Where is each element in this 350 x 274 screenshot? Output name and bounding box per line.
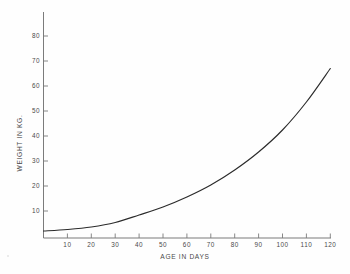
growth-curve-chart: 80 70 60 50 40 30 20 10 10 20 xyxy=(0,0,350,274)
x-axis-tick-labels: 10 20 30 40 50 60 70 80 90 100 110 120 xyxy=(63,241,336,248)
y-tick-label: 50 xyxy=(32,107,40,114)
x-tick-label: 120 xyxy=(324,241,336,248)
y-axis-ticks xyxy=(44,36,49,211)
y-tick-label: 20 xyxy=(32,182,40,189)
x-tick-label: 70 xyxy=(207,241,215,248)
x-tick-label: 60 xyxy=(183,241,191,248)
y-tick-label: 70 xyxy=(32,57,40,64)
y-tick-label: 40 xyxy=(32,132,40,139)
x-axis-ticks xyxy=(67,234,330,239)
x-tick-label: 20 xyxy=(87,241,95,248)
x-tick-label: 90 xyxy=(255,241,263,248)
y-tick-label: 30 xyxy=(32,157,40,164)
y-tick-label: 10 xyxy=(32,207,40,214)
x-tick-label: 40 xyxy=(135,241,143,248)
y-tick-label: 60 xyxy=(32,82,40,89)
figure-canvas: 80 70 60 50 40 30 20 10 10 20 xyxy=(0,0,350,274)
y-axis-title: WEIGHT IN KG. xyxy=(16,115,23,172)
scan-artifact-speck xyxy=(7,255,8,256)
x-tick-label: 100 xyxy=(276,241,288,248)
x-tick-label: 80 xyxy=(231,241,239,248)
y-axis-tick-labels: 80 70 60 50 40 30 20 10 xyxy=(32,32,40,214)
x-tick-label: 50 xyxy=(159,241,167,248)
x-tick-label: 30 xyxy=(111,241,119,248)
y-tick-label: 80 xyxy=(32,32,40,39)
weight-growth-curve xyxy=(44,69,331,232)
x-tick-label: 10 xyxy=(63,241,71,248)
x-axis-title: AGE IN DAYS xyxy=(160,253,209,260)
x-tick-label: 110 xyxy=(301,241,313,248)
